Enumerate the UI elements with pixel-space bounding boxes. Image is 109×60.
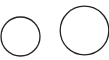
large-circle bbox=[60, 6, 109, 55]
diagram-canvas bbox=[0, 0, 109, 60]
small-circle bbox=[1, 17, 40, 56]
